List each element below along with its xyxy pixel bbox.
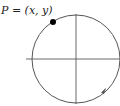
direction-arrow-icon [102,89,106,94]
point-p [50,19,56,25]
point-label: P = (x, y) [1,4,53,17]
